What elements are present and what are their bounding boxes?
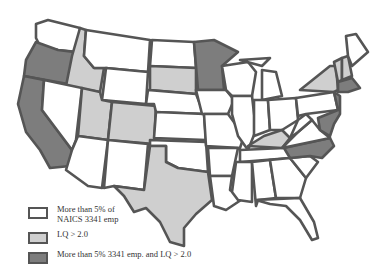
- state-wyoming: [102, 68, 148, 104]
- state-mississippi: [232, 162, 252, 202]
- state-kansas: [154, 112, 206, 140]
- swatch-dark-gray: [28, 252, 48, 264]
- state-new-mexico: [104, 140, 148, 190]
- state-wisconsin: [222, 62, 256, 96]
- legend-label: More than 5% of: [57, 204, 118, 214]
- state-maine: [346, 34, 368, 66]
- state-nebraska: [146, 90, 204, 114]
- state-massachusetts: [338, 78, 360, 92]
- state-montana: [84, 30, 150, 72]
- swatch-light-gray: [28, 232, 48, 244]
- state-north-dakota: [150, 40, 196, 68]
- legend-label: LQ > 2.0: [57, 229, 88, 239]
- legend-item-emp: More than 5% ofNAICS 3341 emp: [28, 204, 191, 224]
- legend-item-both: More than 5% 3341 emp. and LQ > 2.0: [28, 249, 191, 264]
- map-legend: More than 5% ofNAICS 3341 emp LQ > 2.0 M…: [28, 204, 191, 269]
- legend-label-2: NAICS 3341 emp: [57, 214, 118, 224]
- state-colorado: [108, 102, 156, 144]
- legend-item-lq: LQ > 2.0: [28, 229, 191, 244]
- swatch-white: [28, 207, 48, 219]
- state-florida: [256, 198, 318, 240]
- state-new-york: [300, 66, 338, 92]
- legend-label: More than 5% 3341 emp. and LQ > 2.0: [57, 249, 191, 259]
- state-ohio: [268, 98, 298, 130]
